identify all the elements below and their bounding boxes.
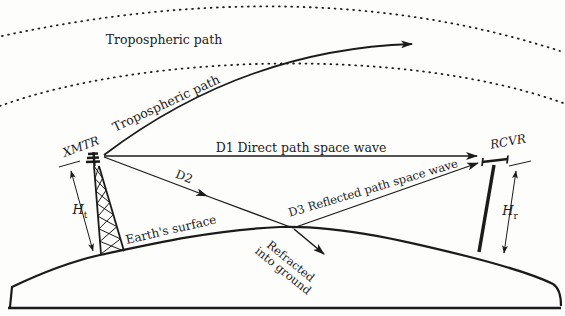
ht-label: Ht	[73, 203, 88, 217]
tower-legs	[94, 166, 124, 254]
hr-subscript: r	[514, 211, 518, 221]
d1-direct-path-label: D1 Direct path space wave	[216, 141, 387, 154]
hr-label: Hr	[502, 204, 518, 218]
tropospheric-path-upper-label: Tropospheric path	[106, 33, 223, 46]
refracted-into-ground-arrow	[294, 229, 324, 254]
transmitter-tower	[86, 152, 124, 254]
hr-symbol: H	[502, 203, 513, 218]
propagation-diagram: Tropospheric path Tropospheric path XMTR…	[0, 0, 565, 316]
ht-symbol: H	[73, 202, 84, 217]
tower-bracing	[94, 166, 124, 254]
sky-dotted-arc-lower	[0, 63, 563, 106]
receiver-crossbar	[482, 159, 508, 162]
sky-dotted-arc-upper	[2, 6, 560, 51]
tropospheric-path-curve	[104, 44, 412, 155]
d2-incident-line-tail	[207, 196, 293, 228]
ht-subscript: t	[84, 210, 88, 220]
transmitter-antenna-bars	[86, 152, 100, 166]
receiver-mast	[479, 165, 494, 252]
